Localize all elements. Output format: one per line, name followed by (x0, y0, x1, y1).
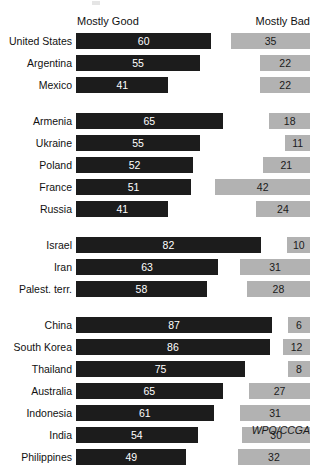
row-label: Ukraine (0, 135, 72, 151)
row-label: China (0, 317, 72, 333)
bar-value-mostly-good: 60 (76, 33, 211, 49)
bar-mostly-good: 86 (76, 339, 270, 355)
legend-label-mostly-bad: Mostly Bad (256, 14, 310, 28)
bar-mostly-bad: 31 (240, 259, 310, 275)
bar-value-mostly-good: 55 (76, 135, 200, 151)
bar-mostly-bad: 22 (260, 77, 310, 93)
bar-mostly-good: 63 (76, 259, 218, 275)
chart-row: Thailand758 (0, 359, 317, 381)
bar-value-mostly-bad: 18 (269, 113, 310, 129)
row-label: Palest. terr. (0, 281, 72, 297)
bar-mostly-bad: 11 (285, 135, 310, 151)
bar-value-mostly-good: 87 (76, 317, 272, 333)
bar-mostly-bad: 28 (247, 281, 310, 297)
bar-mostly-good: 65 (76, 113, 223, 129)
bar-mostly-bad: 35 (231, 33, 310, 49)
row-label: Australia (0, 383, 72, 399)
bar-mostly-good: 55 (76, 55, 200, 71)
bar-mostly-bad: 18 (269, 113, 310, 129)
bar-mostly-bad: 12 (283, 339, 310, 355)
bar-mostly-bad: 27 (249, 383, 310, 399)
row-label: South Korea (0, 339, 72, 355)
chart-row: Mexico4122 (0, 75, 317, 97)
row-label: Poland (0, 157, 72, 173)
chart-row: Ukraine5511 (0, 133, 317, 155)
bar-value-mostly-bad: 24 (256, 201, 310, 217)
bar-value-mostly-bad: 12 (283, 339, 310, 355)
bar-mostly-good: 51 (76, 179, 191, 195)
bar-value-mostly-bad: 31 (240, 405, 310, 421)
bar-value-mostly-good: 54 (76, 427, 198, 443)
bar-value-mostly-good: 75 (76, 361, 245, 377)
bar-mostly-bad: 24 (256, 201, 310, 217)
row-label: France (0, 179, 72, 195)
bar-mostly-bad: 22 (260, 55, 310, 71)
bar-group-europe: Armenia6518Ukraine5511Poland5221France51… (0, 111, 317, 221)
bar-value-mostly-good: 65 (76, 383, 223, 399)
bar-value-mostly-good: 86 (76, 339, 270, 355)
bar-mostly-bad: 8 (288, 361, 310, 377)
chart-row: France5142 (0, 177, 317, 199)
chart-row: Israel8210 (0, 235, 317, 257)
bar-value-mostly-good: 58 (76, 281, 207, 297)
bar-value-mostly-good: 41 (76, 77, 168, 93)
chart-row: Armenia6518 (0, 111, 317, 133)
bar-mostly-bad: 10 (287, 237, 310, 253)
chart-row: Indonesia6131 (0, 403, 317, 425)
bar-group-middle-east: Israel8210Iran6331Palest. terr.5828 (0, 235, 317, 301)
bar-value-mostly-bad: 32 (238, 449, 310, 465)
row-label: Armenia (0, 113, 72, 129)
bar-value-mostly-good: 82 (76, 237, 261, 253)
bar-mostly-good: 82 (76, 237, 261, 253)
source-attribution: WPO/CCGA (252, 424, 310, 436)
bar-value-mostly-bad: 22 (260, 55, 310, 71)
bar-mostly-good: 58 (76, 281, 207, 297)
bar-value-mostly-good: 55 (76, 55, 200, 71)
bar-mostly-bad: 6 (288, 317, 310, 333)
bar-value-mostly-bad: 10 (287, 237, 310, 253)
bar-mostly-good: 87 (76, 317, 272, 333)
row-label: Russia (0, 201, 72, 217)
bar-value-mostly-good: 41 (76, 201, 168, 217)
chart-row: Poland5221 (0, 155, 317, 177)
chart-row: Palest. terr.5828 (0, 279, 317, 301)
bar-mostly-good: 75 (76, 361, 245, 377)
scan-artifact (92, 1, 100, 5)
bar-value-mostly-bad: 28 (247, 281, 310, 297)
bar-chart: Mostly Good Mostly Bad United States6035… (0, 0, 317, 468)
row-label: Iran (0, 259, 72, 275)
chart-row: South Korea8612 (0, 337, 317, 359)
bar-mostly-good: 55 (76, 135, 200, 151)
bar-value-mostly-good: 63 (76, 259, 218, 275)
chart-row: Australia6527 (0, 381, 317, 403)
bar-mostly-good: 54 (76, 427, 198, 443)
bar-mostly-good: 52 (76, 157, 193, 173)
row-label: Thailand (0, 361, 72, 377)
bar-mostly-good: 61 (76, 405, 214, 421)
bar-mostly-good: 41 (76, 77, 168, 93)
bar-value-mostly-good: 49 (76, 449, 186, 465)
row-label: Argentina (0, 55, 72, 71)
bar-value-mostly-good: 52 (76, 157, 193, 173)
bar-mostly-good: 60 (76, 33, 211, 49)
bar-mostly-good: 41 (76, 201, 168, 217)
row-label: Mexico (0, 77, 72, 93)
legend-label-mostly-good: Mostly Good (77, 14, 139, 28)
bar-mostly-bad: 42 (215, 179, 310, 195)
bar-value-mostly-good: 61 (76, 405, 214, 421)
row-label: India (0, 427, 72, 443)
bar-value-mostly-bad: 27 (249, 383, 310, 399)
bar-group-asia-pacific: China876South Korea8612Thailand758Austra… (0, 315, 317, 468)
bar-value-mostly-good: 51 (76, 179, 191, 195)
row-label: Israel (0, 237, 72, 253)
bar-value-mostly-bad: 6 (288, 317, 310, 333)
bar-value-mostly-bad: 8 (288, 361, 310, 377)
bar-value-mostly-bad: 35 (231, 33, 310, 49)
chart-row: Argentina5522 (0, 53, 317, 75)
bar-group-americas: United States6035Argentina5522Mexico4122 (0, 31, 317, 97)
bar-mostly-good: 65 (76, 383, 223, 399)
bar-value-mostly-bad: 42 (215, 179, 310, 195)
chart-row: Iran6331 (0, 257, 317, 279)
row-label: Indonesia (0, 405, 72, 421)
bar-mostly-bad: 32 (238, 449, 310, 465)
